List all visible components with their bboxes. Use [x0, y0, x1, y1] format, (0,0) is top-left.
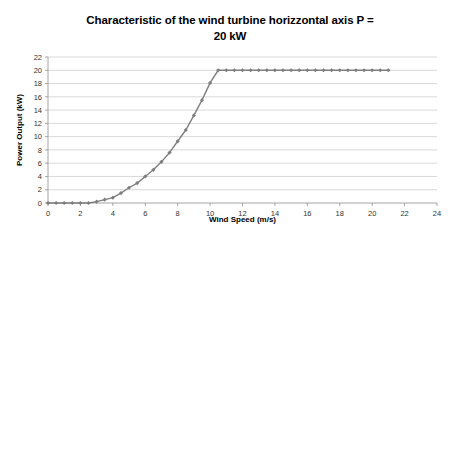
chart-block-20kw: Characteristic of the wind turbine horiz…: [0, 0, 460, 233]
chart-page: Characteristic of the wind turbine horiz…: [0, 0, 460, 466]
x-tick-label: 4: [111, 209, 115, 218]
data-point-marker: [240, 68, 244, 72]
data-point-marker: [362, 68, 366, 72]
data-point-marker: [78, 201, 82, 205]
y-tick-label: 4: [38, 172, 42, 181]
data-point-marker: [346, 68, 350, 72]
y-tick-label: 2: [38, 185, 42, 194]
y-tick-label: 10: [34, 132, 42, 141]
data-point-marker: [370, 68, 374, 72]
data-point-marker: [297, 68, 301, 72]
data-point-marker: [321, 68, 325, 72]
data-point-marker: [338, 68, 342, 72]
data-point-marker: [265, 68, 269, 72]
x-tick-label: 8: [176, 209, 180, 218]
data-point-marker: [224, 68, 228, 72]
data-point-marker: [62, 201, 66, 205]
x-tick-label: 20: [368, 209, 376, 218]
x-tick-label: 16: [303, 209, 311, 218]
y-tick-label: 14: [34, 106, 42, 115]
data-point-marker: [257, 68, 261, 72]
data-point-marker: [313, 68, 317, 72]
y-axis-label: Power Output (kW): [15, 94, 24, 166]
chart-svg-20kw: 0246810121416182022024681012141618202224…: [0, 0, 460, 233]
y-tick-label: 12: [34, 119, 42, 128]
x-tick-label: 18: [336, 209, 344, 218]
data-point-marker: [354, 68, 358, 72]
data-point-marker: [305, 68, 309, 72]
data-point-marker: [46, 201, 50, 205]
data-point-marker: [70, 201, 74, 205]
y-tick-label: 16: [34, 93, 42, 102]
y-tick-label: 18: [34, 79, 42, 88]
x-tick-label: 6: [143, 209, 147, 218]
data-point-marker: [273, 68, 277, 72]
plot-area-20kw: 0246810121416182022024681012141618202224…: [0, 0, 460, 233]
data-point-marker: [281, 68, 285, 72]
data-point-marker: [232, 68, 236, 72]
y-tick-label: 8: [38, 146, 42, 155]
data-point-marker: [330, 68, 334, 72]
x-tick-label: 24: [433, 209, 441, 218]
y-tick-label: 20: [34, 66, 42, 75]
data-point-marker: [249, 68, 253, 72]
data-point-marker: [378, 68, 382, 72]
x-tick-label: 2: [78, 209, 82, 218]
data-point-marker: [289, 68, 293, 72]
data-point-marker: [386, 68, 390, 72]
x-tick-label: 22: [400, 209, 408, 218]
y-tick-label: 22: [34, 53, 42, 62]
data-point-marker: [54, 201, 58, 205]
data-point-marker: [86, 201, 90, 205]
x-tick-label: 0: [46, 209, 50, 218]
y-tick-label: 0: [38, 199, 42, 208]
y-tick-label: 6: [38, 159, 42, 168]
x-axis-label: Wind Speed (m/s): [209, 215, 276, 224]
data-point-marker: [103, 198, 107, 202]
